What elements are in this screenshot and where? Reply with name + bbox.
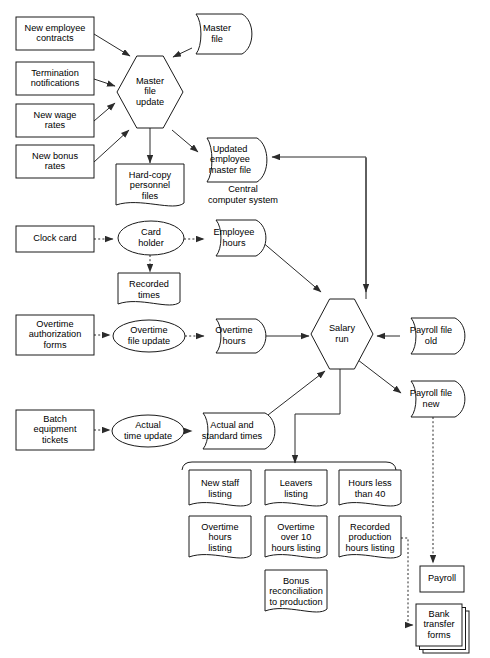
node-label-line: Bonus <box>283 576 309 586</box>
node-overtime-authorization-forms: Overtimeauthorizationforms <box>16 315 94 355</box>
node-label-line: listing <box>208 543 232 553</box>
node-label-line: rates <box>45 120 66 130</box>
node-batch-equipment-tickets: Batchequipmenttickets <box>16 410 94 450</box>
node-recorded-times: Recordedtimes <box>118 273 180 305</box>
node-new-employee-contracts: New employeecontracts <box>16 17 94 50</box>
node-label-line: file <box>144 86 156 96</box>
node-label-line: Overtime <box>277 522 314 532</box>
node-label-line: transfer <box>423 619 454 629</box>
node-label-line: Overtime <box>130 325 167 335</box>
node-label-line: personnel <box>130 180 170 190</box>
shape-tape <box>411 318 465 354</box>
node-label-line: employee <box>210 154 250 164</box>
node-label-line: Bank <box>429 609 450 619</box>
node-label-line: New staff <box>201 478 240 488</box>
node-label-line: Clock card <box>33 233 76 243</box>
node-label-line: old <box>425 336 437 346</box>
node-label-line: tickets <box>42 435 68 445</box>
edge-new-wage-rates-to-master-file-update <box>94 103 115 121</box>
node-label-line: reconciliation <box>269 586 323 596</box>
node-label-line: over 10 <box>281 532 312 542</box>
node-label-line: Batch <box>43 414 67 424</box>
node-new-staff-listing: New stafflisting <box>189 470 251 506</box>
free-label-line-2: computer system <box>208 195 278 205</box>
node-salary-run: Salaryrun <box>311 299 373 369</box>
node-label-line: contracts <box>36 33 74 43</box>
node-label-line: Card <box>141 227 161 237</box>
node-label-line: Payroll file <box>410 325 452 335</box>
edge-master-file-update-to-updated-employee-master-file <box>172 130 198 152</box>
node-label-line: Leavers <box>280 478 313 488</box>
node-overtime-over-10-hours-listing: Overtimeover 10hours listing <box>265 516 327 558</box>
node-actual-time-update: Actualtime update <box>112 415 184 447</box>
node-label-line: to production <box>269 597 322 607</box>
node-label-line: Master <box>203 23 231 33</box>
node-label-line: Overtime <box>215 325 252 335</box>
node-label-line: holder <box>138 238 164 248</box>
node-label-line: Recorded <box>350 522 390 532</box>
nodes-layer: New employeecontractsTerminationnotifica… <box>16 14 469 653</box>
node-card-holder: Cardholder <box>118 221 184 255</box>
node-label-line: file <box>211 34 223 44</box>
node-label-line: time update <box>124 431 172 441</box>
node-overtime-file-update: Overtimefile update <box>113 320 185 352</box>
node-label-line: New employee <box>25 23 86 33</box>
node-label-line: listing <box>208 489 232 499</box>
node-label-line: standard times <box>202 431 263 441</box>
node-label-line: production <box>349 532 392 542</box>
edge-termination-notifications-to-master-file-update <box>94 79 115 86</box>
node-label-line: Hours less <box>348 478 392 488</box>
node-master-file: Masterfile <box>196 14 252 54</box>
node-label-line: forms <box>44 340 67 350</box>
node-label-line: Actual <box>135 420 161 430</box>
node-overtime-hours-listing: Overtimehourslisting <box>189 516 251 558</box>
node-label-line: hours <box>209 532 232 542</box>
node-label-line: Updated <box>213 144 248 154</box>
node-updated-employee-master-file: Updatedemployeemaster file <box>207 138 267 182</box>
node-payroll-file-old: Payroll fileold <box>410 318 465 354</box>
node-hours-less-than-40: Hours lessthan 40 <box>339 470 401 506</box>
node-new-bonus-rates: New bonusrates <box>16 145 94 178</box>
node-master-file-update: Masterfileupdate <box>117 56 183 128</box>
node-label-line: forms <box>428 630 451 640</box>
node-label-line: times <box>138 290 160 300</box>
node-label-line: rates <box>45 161 66 171</box>
node-label-line: Overtime <box>36 319 73 329</box>
node-label-line: authorization <box>29 329 82 339</box>
edge-salary-run-to-payroll-file-new <box>358 360 401 393</box>
node-label-line: hours <box>223 238 246 248</box>
flowchart-canvas: New employeecontractsTerminationnotifica… <box>0 0 490 658</box>
node-label-line: master file <box>209 165 251 175</box>
node-label-line: file update <box>128 336 170 346</box>
listings-brace <box>182 462 396 470</box>
node-label-line: New wage <box>34 110 77 120</box>
edge-salary-run-to-listings <box>295 369 340 463</box>
node-label-line: hours listing <box>345 543 394 553</box>
node-leavers-listing: Leaverslisting <box>265 470 327 506</box>
node-label-line: Master <box>136 76 164 86</box>
flowchart-svg: New employeecontractsTerminationnotifica… <box>0 0 490 658</box>
node-label-line: New bonus <box>32 151 78 161</box>
node-label-line: equipment <box>34 424 77 434</box>
node-label-line: update <box>136 97 164 107</box>
node-label-line: new <box>423 399 440 409</box>
node-bank-transfer-forms: Banktransferforms <box>416 604 469 653</box>
free-labels-layer: Centralcomputer system <box>208 184 278 205</box>
node-payroll-file-new: Payroll filenew <box>410 381 465 417</box>
edge-actual-and-standard-times-to-salary-run <box>268 371 325 415</box>
node-label-line: Recorded <box>129 279 169 289</box>
node-label-line: listing <box>284 489 308 499</box>
free-label-line-1: Central <box>228 184 258 194</box>
node-label-line: run <box>335 334 348 344</box>
node-label-line: Termination <box>31 68 79 78</box>
node-termination-notifications: Terminationnotifications <box>16 62 94 95</box>
node-actual-and-standard-times: Actual andstandard times <box>202 413 275 449</box>
edge-employee-hours-to-salary-run <box>261 241 321 292</box>
edge-salary-run-to-updated-employee-master-file <box>272 157 366 299</box>
edge-master-file-to-master-file-update <box>173 48 192 57</box>
node-label-line: Payroll <box>428 573 456 583</box>
node-recorded-production-hours-listing: Recordedproductionhours listing <box>339 516 401 558</box>
node-label-line: Payroll file <box>410 388 452 398</box>
node-clock-card: Clock card <box>16 226 94 252</box>
shape-tape <box>196 14 252 54</box>
